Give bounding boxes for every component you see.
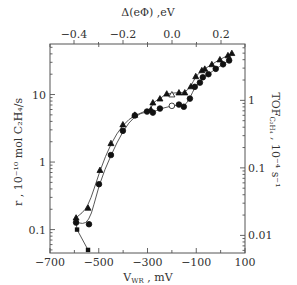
circle-marker [150,110,156,116]
fit-curves [76,53,232,250]
left-axis-title: r , 10⁻¹⁰ mol C₂H₄/s [12,98,25,206]
y-tick-label: 1 [39,156,46,169]
square-marker [75,227,79,231]
triangle-marker [157,96,163,101]
x-tick-label: −500 [84,256,114,269]
circle-marker [226,58,232,64]
circle-marker [197,80,203,86]
triangle-marker [120,121,126,126]
right-axis-title: TOFC₂H₄ , 10⁻⁴ s⁻¹ [268,92,282,187]
x2-tick-label: −0.2 [110,28,137,41]
circle-marker [206,71,212,77]
circle-marker [108,152,114,158]
x-tick-label: −100 [181,256,211,269]
circle-marker [187,96,193,102]
triangle-marker [150,100,156,105]
x2-tick-label: 0.2 [212,28,230,41]
triangle-marker [209,61,215,66]
circle-marker [96,181,102,187]
triangle-marker [217,57,223,62]
plot-frame [50,44,245,253]
bottom-axis-title: VWR , mV [122,271,173,285]
triangle-marker [229,50,235,55]
y2-tick-label: 1 [248,94,255,107]
triangle-marker [97,167,103,172]
circle-marker [213,66,219,72]
x-tick-label: 100 [235,256,256,269]
circle-marker [144,109,150,115]
triangle-marker [169,92,175,97]
x-tick-label: −300 [132,256,162,269]
x2-tick-label: 0.0 [163,28,181,41]
tick-labels: −700−500−300−100100−0.4−0.20.00.20.11100… [29,28,273,269]
x2-tick-label: −0.4 [61,28,88,41]
y2-tick-label: 0.01 [248,229,273,242]
circle-marker [86,221,92,227]
circle-marker [157,106,163,112]
circle-marker [192,84,198,90]
top-axis-title: Δ(eΦ) ,eV [121,6,176,19]
chart: −700−500−300−100100−0.4−0.20.00.20.11100… [0,0,297,285]
circle-marker [220,62,226,68]
square-marker [86,248,90,252]
data-points [73,50,235,252]
y2-tick-label: 0.1 [248,162,266,175]
circle-marker [181,104,187,110]
circle-marker [132,113,138,119]
circle-marker [120,128,126,134]
circle-marker [200,74,206,80]
circle-marker [73,220,79,226]
y-tick-label: 0.1 [29,224,47,237]
circle-marker [169,103,175,109]
y-tick-label: 10 [32,89,46,102]
x-tick-label: −700 [35,256,65,269]
